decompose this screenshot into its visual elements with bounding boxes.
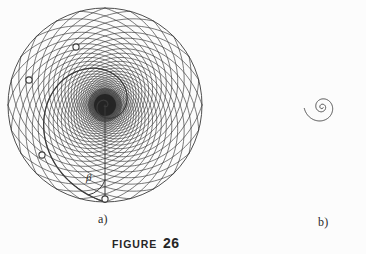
panel-b-caption: b): [318, 215, 328, 230]
spiral-marker-point: [39, 152, 45, 158]
beta-angle-label: β: [86, 171, 91, 183]
figure-label-word: FIGURE: [112, 238, 157, 250]
figure-label: FIGURE26: [112, 234, 179, 252]
figure-label-number: 26: [163, 235, 179, 251]
panel-b-diagram: [304, 99, 332, 121]
figure-container: β a) b) FIGURE26: [0, 0, 366, 254]
spiral-marker-point: [26, 77, 32, 83]
panel-a-diagram: [8, 8, 202, 202]
spiral-marker-point: [102, 196, 108, 202]
figure-drawing: [0, 0, 366, 254]
panel-a-caption: a): [98, 212, 108, 227]
spiral-marker-point: [73, 44, 79, 50]
